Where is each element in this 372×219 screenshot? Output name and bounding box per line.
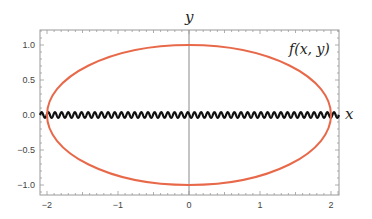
x-tick-label: 0: [186, 200, 191, 210]
x-tick-label: 1: [257, 200, 262, 210]
y-axis-label: y: [184, 8, 194, 26]
function-label: f(x, y): [288, 41, 330, 57]
y-tick-label: 1.0: [22, 40, 35, 50]
x-tick-label: −1: [113, 200, 123, 210]
y-tick-label: −0.5: [17, 145, 35, 155]
chart: −2−1012−1.0−0.50.00.51.0 y x f(x, y): [0, 0, 372, 219]
y-tick-label: 0.0: [22, 110, 35, 120]
oscillation-curve: [40, 112, 339, 118]
y-tick-label: 0.5: [22, 75, 35, 85]
x-axis-label: x: [345, 105, 354, 123]
x-tick-label: −2: [42, 200, 52, 210]
y-tick-label: −1.0: [17, 180, 35, 190]
x-tick-label: 2: [328, 200, 333, 210]
